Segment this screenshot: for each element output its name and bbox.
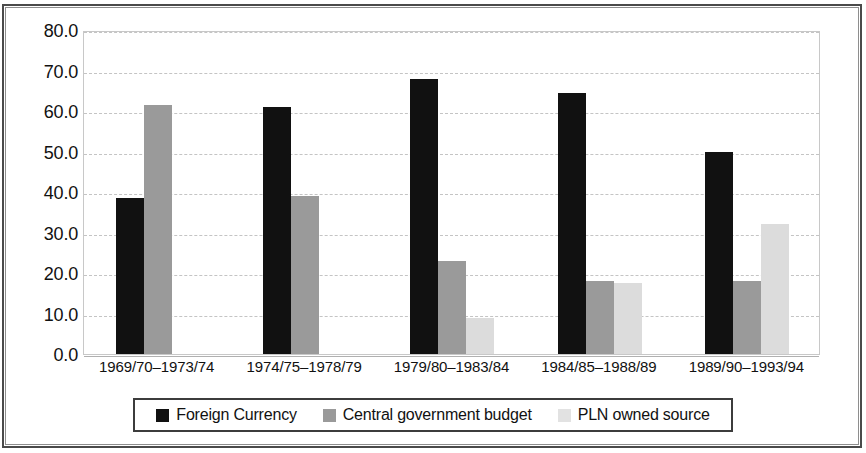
y-axis-tick-label: 30.0 bbox=[6, 223, 78, 244]
y-axis-tick-label: 40.0 bbox=[6, 183, 78, 204]
y-axis-tick-label: 80.0 bbox=[6, 21, 78, 42]
legend-label: Foreign Currency bbox=[176, 406, 296, 424]
plot-area bbox=[83, 31, 820, 355]
chart-legend: Foreign CurrencyCentral government budge… bbox=[133, 398, 733, 432]
gridline bbox=[84, 356, 819, 357]
bar bbox=[558, 93, 586, 354]
y-axis-tick-label: 20.0 bbox=[6, 264, 78, 285]
x-axis-tick-label: 1974/75–1978/79 bbox=[230, 358, 377, 375]
bar-group bbox=[231, 32, 378, 354]
legend-swatch-icon bbox=[156, 409, 169, 422]
x-axis-tick-label: 1969/70–1973/74 bbox=[83, 358, 230, 375]
legend-swatch-icon bbox=[558, 409, 571, 422]
legend-swatch-icon bbox=[323, 409, 336, 422]
bar bbox=[761, 224, 789, 354]
legend-label: Central government budget bbox=[343, 406, 532, 424]
bar bbox=[705, 152, 733, 355]
bar-group bbox=[379, 32, 526, 354]
y-axis-tick-label: 10.0 bbox=[6, 304, 78, 325]
bar bbox=[438, 261, 466, 354]
bar bbox=[144, 105, 172, 354]
x-axis-tick-label: 1979/80–1983/84 bbox=[378, 358, 525, 375]
bar bbox=[614, 283, 642, 354]
bar-group bbox=[674, 32, 821, 354]
bar bbox=[291, 196, 319, 354]
bar bbox=[263, 107, 291, 354]
y-axis: 80.070.060.050.040.030.020.010.00.0 bbox=[0, 31, 78, 355]
x-axis-tick-label: 1989/90–1993/94 bbox=[673, 358, 820, 375]
legend-item: Foreign Currency bbox=[156, 406, 296, 424]
y-axis-tick-label: 50.0 bbox=[6, 142, 78, 163]
bar bbox=[466, 318, 494, 354]
bar-group bbox=[526, 32, 673, 354]
x-axis-tick-label: 1984/85–1988/89 bbox=[525, 358, 672, 375]
chart-figure: 80.070.060.050.040.030.020.010.00.0 1969… bbox=[0, 0, 866, 453]
bar bbox=[410, 79, 438, 354]
legend-item: Central government budget bbox=[323, 406, 532, 424]
bar bbox=[733, 281, 761, 354]
legend-label: PLN owned source bbox=[578, 406, 710, 424]
y-axis-tick-label: 70.0 bbox=[6, 61, 78, 82]
y-axis-tick-label: 0.0 bbox=[6, 345, 78, 366]
legend-item: PLN owned source bbox=[558, 406, 710, 424]
y-axis-tick-label: 60.0 bbox=[6, 102, 78, 123]
x-axis-labels: 1969/70–1973/741974/75–1978/791979/80–19… bbox=[83, 358, 820, 384]
bar bbox=[586, 281, 614, 354]
bar bbox=[116, 198, 144, 354]
bar-group bbox=[84, 32, 231, 354]
